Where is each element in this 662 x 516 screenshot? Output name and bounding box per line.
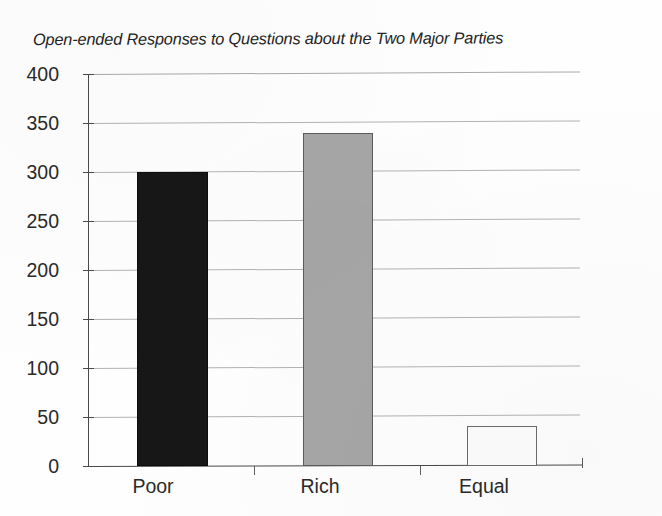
y-tick-label-200: 200 (0, 261, 59, 281)
bar-equal[interactable] (467, 426, 537, 466)
x-axis-end-tick (582, 458, 583, 468)
x-category-boundary-tick-2 (420, 466, 421, 475)
y-tick-mark-50 (83, 417, 94, 418)
chart-title: Open-ended Responses to Questions about … (33, 28, 653, 49)
chart-screenshot: Open-ended Responses to Questions about … (0, 0, 662, 516)
y-tick-label-400: 400 (0, 65, 59, 85)
plot-area (88, 74, 583, 466)
y-tick-mark-150 (83, 319, 94, 320)
bar-poor[interactable] (137, 172, 208, 466)
y-tick-label-100: 100 (0, 359, 59, 379)
y-tick-label-150: 150 (0, 310, 59, 330)
y-tick-mark-100 (83, 368, 94, 369)
y-tick-label-250: 250 (0, 212, 59, 232)
x-category-label-poor: Poor (93, 477, 213, 497)
x-category-label-rich: Rich (260, 477, 380, 497)
y-tick-label-350: 350 (0, 114, 59, 134)
y-tick-label-50: 50 (0, 408, 59, 428)
bar-rich[interactable] (303, 133, 373, 466)
gridline-350 (88, 120, 580, 124)
x-category-label-equal: Equal (424, 477, 544, 497)
y-tick-mark-400 (83, 74, 94, 75)
y-tick-mark-200 (83, 270, 94, 271)
y-tick-mark-350 (83, 123, 94, 124)
y-tick-mark-300 (83, 172, 94, 173)
y-tick-mark-250 (83, 221, 94, 222)
x-category-boundary-tick-1 (254, 466, 255, 475)
y-tick-label-300: 300 (0, 163, 59, 183)
gridline-400 (88, 71, 580, 75)
y-tick-mark-0 (83, 466, 94, 467)
y-tick-label-0: 0 (0, 457, 59, 477)
